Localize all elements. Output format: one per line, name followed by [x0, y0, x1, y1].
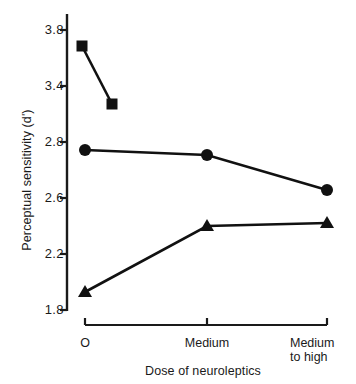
- series-circles-point-1: [201, 149, 213, 161]
- series-circles-point-2: [321, 184, 333, 196]
- series-squares-line: [82, 46, 112, 104]
- series-squares-point-1: [107, 99, 118, 110]
- chart-figure: Perceptual sensitivity (d') Dose of neur…: [0, 0, 356, 384]
- series-triangles-point-0: [78, 285, 92, 297]
- chart-plot-area: [0, 0, 356, 384]
- series-circles-point-0: [79, 144, 91, 156]
- series-squares-point-0: [77, 41, 88, 52]
- series-triangles-line: [85, 223, 327, 292]
